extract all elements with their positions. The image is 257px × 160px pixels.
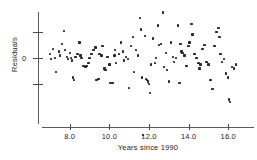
data-point bbox=[113, 54, 115, 56]
data-point bbox=[118, 53, 120, 55]
x-tick-1 bbox=[109, 124, 110, 130]
data-point bbox=[133, 71, 135, 73]
data-point bbox=[67, 58, 69, 60]
data-point bbox=[218, 36, 220, 38]
data-point bbox=[166, 69, 168, 71]
data-point bbox=[223, 58, 225, 60]
data-point bbox=[209, 79, 211, 81]
data-point bbox=[227, 76, 229, 78]
data-point bbox=[217, 27, 219, 29]
data-point bbox=[63, 30, 65, 32]
data-point bbox=[201, 48, 203, 50]
data-point bbox=[188, 41, 190, 43]
data-point bbox=[195, 57, 197, 59]
data-point bbox=[185, 65, 187, 67]
x-tick-label-4: 16.0 bbox=[221, 132, 236, 141]
data-point bbox=[152, 37, 154, 39]
data-point bbox=[78, 41, 80, 43]
data-point bbox=[193, 53, 195, 55]
data-point bbox=[139, 17, 141, 19]
data-point bbox=[120, 41, 122, 43]
data-point bbox=[64, 49, 66, 51]
data-point bbox=[198, 67, 200, 69]
data-point bbox=[173, 61, 175, 63]
data-point bbox=[154, 62, 156, 64]
data-point bbox=[187, 45, 189, 47]
x-tick-2 bbox=[149, 124, 150, 130]
data-point bbox=[58, 50, 60, 52]
data-point bbox=[135, 49, 137, 51]
data-point bbox=[179, 82, 181, 84]
data-point bbox=[172, 56, 174, 58]
data-point bbox=[100, 54, 102, 56]
data-point bbox=[50, 58, 52, 60]
data-point bbox=[49, 53, 51, 55]
data-point bbox=[157, 24, 159, 26]
data-point bbox=[108, 63, 110, 65]
data-point bbox=[160, 43, 162, 45]
data-point bbox=[219, 53, 221, 55]
data-point bbox=[106, 56, 108, 58]
data-point bbox=[225, 72, 227, 74]
data-point bbox=[203, 44, 205, 46]
data-point bbox=[233, 67, 235, 69]
data-point bbox=[235, 63, 237, 65]
data-point bbox=[221, 61, 223, 63]
data-point bbox=[229, 101, 231, 103]
data-point bbox=[61, 43, 63, 45]
data-point bbox=[168, 80, 170, 82]
data-point bbox=[54, 57, 56, 59]
data-point bbox=[215, 31, 217, 33]
data-point bbox=[111, 82, 113, 84]
data-point bbox=[88, 57, 90, 59]
data-point bbox=[127, 58, 129, 60]
data-point bbox=[175, 57, 177, 59]
data-point bbox=[207, 63, 209, 65]
data-point bbox=[199, 63, 201, 65]
data-point bbox=[52, 48, 54, 50]
data-point bbox=[137, 54, 139, 56]
residual-scatter-plot-figure: 8.010.012.014.016.0 0 Residuals Years si… bbox=[0, 0, 257, 160]
data-point bbox=[132, 36, 134, 38]
data-point bbox=[80, 57, 82, 59]
data-point bbox=[165, 52, 167, 54]
data-point bbox=[114, 49, 116, 51]
data-point bbox=[69, 52, 71, 54]
data-point bbox=[97, 78, 99, 80]
x-tick-label-0: 8.0 bbox=[64, 132, 75, 141]
data-point bbox=[211, 88, 213, 90]
data-point bbox=[149, 92, 151, 94]
data-point bbox=[163, 66, 165, 68]
data-point bbox=[141, 76, 143, 78]
x-tick-0 bbox=[70, 124, 71, 130]
y-tick-0 bbox=[33, 32, 43, 33]
data-point bbox=[177, 24, 179, 26]
data-point bbox=[140, 28, 142, 30]
data-point bbox=[94, 46, 96, 48]
data-point bbox=[155, 57, 157, 59]
data-point bbox=[115, 62, 117, 64]
data-point bbox=[122, 50, 124, 52]
x-tick-label-3: 14.0 bbox=[181, 132, 196, 141]
data-point bbox=[59, 54, 61, 56]
plot-area: 8.010.012.014.016.0 0 Residuals Years si… bbox=[0, 0, 257, 160]
data-point bbox=[71, 59, 73, 61]
data-point bbox=[130, 45, 132, 47]
y-axis-spine bbox=[38, 12, 39, 124]
y-tick-1 bbox=[33, 58, 43, 59]
data-point bbox=[123, 59, 125, 61]
data-point bbox=[190, 23, 192, 25]
x-axis-title: Years since 1990 bbox=[42, 143, 254, 152]
data-point bbox=[148, 83, 150, 85]
x-tick-label-1: 10.0 bbox=[102, 132, 117, 141]
data-point bbox=[191, 33, 193, 35]
data-point bbox=[179, 43, 181, 45]
data-point bbox=[162, 11, 164, 13]
data-point bbox=[104, 69, 106, 71]
data-point bbox=[55, 71, 57, 73]
x-tick-3 bbox=[189, 124, 190, 130]
data-point bbox=[101, 45, 103, 47]
data-point bbox=[150, 63, 152, 65]
y-axis-title: Residuals bbox=[10, 25, 19, 85]
y-tick-2 bbox=[33, 84, 43, 85]
